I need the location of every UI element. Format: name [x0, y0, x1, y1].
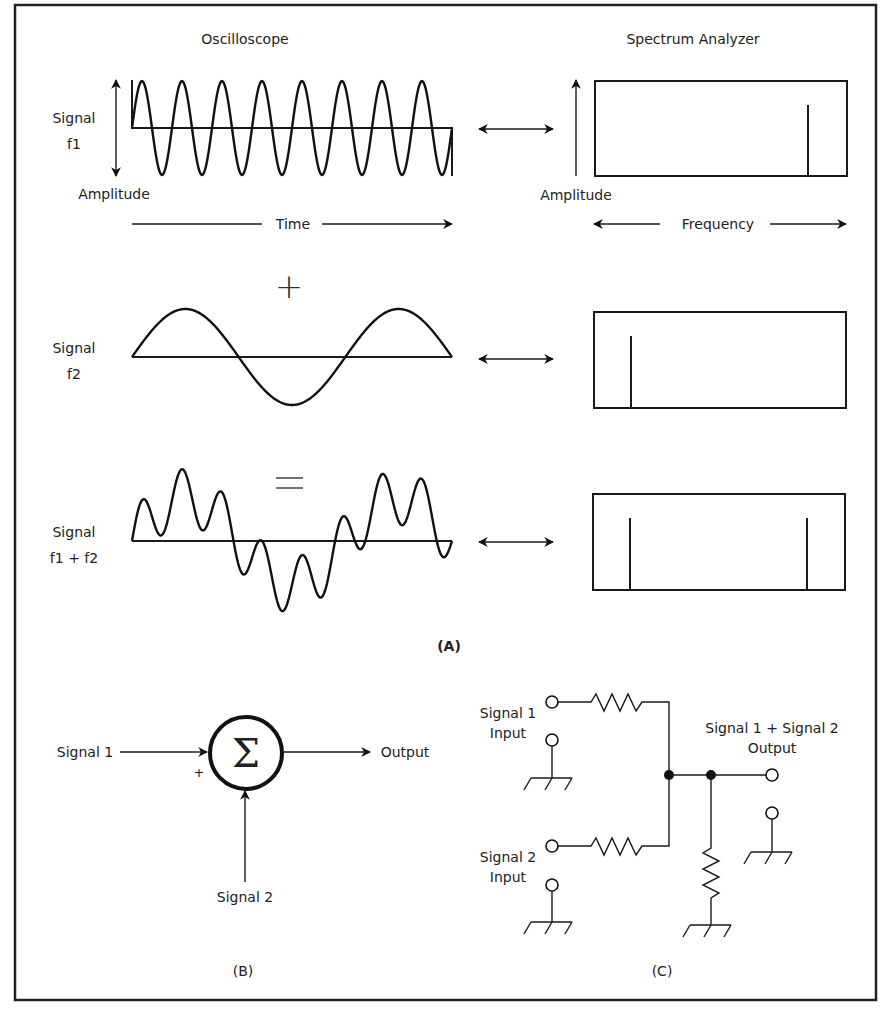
plus-sign: +: [194, 765, 205, 780]
ground-icon: [524, 746, 572, 790]
input2-terminal-icon: [546, 840, 558, 852]
row-signal-sum: Signal f1 + f2: [50, 469, 845, 611]
spectrum-display-f1: [595, 81, 847, 176]
input1-ground-terminal-icon: [546, 734, 558, 746]
sigma-symbol: Σ: [232, 730, 260, 776]
input1-resistor-icon: [558, 694, 669, 775]
panel-a-label: (A): [437, 638, 461, 654]
signal-sublabel: f1 + f2: [50, 550, 98, 566]
signal-sublabel: f2: [67, 366, 81, 382]
ground-icon: [683, 925, 731, 937]
input1-label: Signal 1: [480, 705, 536, 721]
row-signal-f2: + Signal f2: [52, 266, 846, 408]
output-ground-terminal-icon: [766, 807, 778, 819]
ground-icon: [524, 891, 572, 934]
panel-c-resistive-summer: Signal 1 Input Signal 2 Input Si: [480, 694, 839, 937]
load-resistor-icon: [703, 775, 719, 925]
input2-sublabel: Input: [490, 869, 527, 885]
input1-terminal-icon: [546, 696, 558, 708]
input1-sublabel: Input: [490, 725, 527, 741]
signal-sublabel: f1: [67, 136, 81, 152]
row-signal-f1: Signal f1 Amplitude Time Amplitude Frequ…: [52, 80, 847, 232]
signal-label: Signal: [52, 340, 95, 356]
panel-b-summing-junction: Signal 1 + Σ Output Signal 2: [57, 717, 430, 905]
input2-resistor-icon: [558, 775, 669, 855]
output-label: Output: [381, 744, 430, 760]
amplitude-label: Amplitude: [78, 186, 150, 202]
signal-label: Signal: [52, 524, 95, 540]
ground-icon: [744, 819, 792, 864]
figure-frame: [15, 5, 876, 1000]
panel-b-label: (B): [233, 963, 254, 979]
input2-ground-terminal-icon: [546, 879, 558, 891]
output-sublabel: Output: [748, 740, 797, 756]
panel-c-label: (C): [652, 963, 673, 979]
plus-operator: +: [275, 266, 304, 306]
output-terminal-icon: [766, 769, 778, 781]
signal2-label: Signal 2: [217, 889, 273, 905]
input2-label: Signal 2: [480, 849, 536, 865]
signal-label: Signal: [52, 110, 95, 126]
signal-summing-figure: Oscilloscope Spectrum Analyzer Signal f1…: [0, 0, 882, 1009]
signal1-label: Signal 1: [57, 744, 113, 760]
output-label: Signal 1 + Signal 2: [705, 720, 838, 736]
time-label: Time: [275, 216, 310, 232]
spectrum-amplitude-label: Amplitude: [540, 187, 612, 203]
frequency-label: Frequency: [682, 216, 754, 232]
spectrum-analyzer-title: Spectrum Analyzer: [626, 31, 759, 47]
oscilloscope-title: Oscilloscope: [201, 31, 288, 47]
